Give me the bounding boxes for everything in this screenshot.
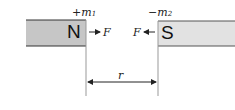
charge-m1-label: +m1 xyxy=(72,7,96,18)
charge-symbol: m xyxy=(157,6,167,19)
north-pole-label: N xyxy=(67,22,81,41)
charge-symbol: m xyxy=(81,6,91,19)
magnet-diagram xyxy=(0,0,235,110)
charge-subscript: 1 xyxy=(92,10,96,18)
south-pole-label: S xyxy=(161,23,174,42)
charge-subscript: 2 xyxy=(168,10,172,18)
charge-m2-label: −m2 xyxy=(148,7,172,18)
force-label-right: F xyxy=(103,27,111,38)
distance-label: r xyxy=(118,70,123,81)
charge-sign: + xyxy=(72,6,81,19)
charge-sign: − xyxy=(148,6,157,19)
force-label-left: F xyxy=(133,27,141,38)
